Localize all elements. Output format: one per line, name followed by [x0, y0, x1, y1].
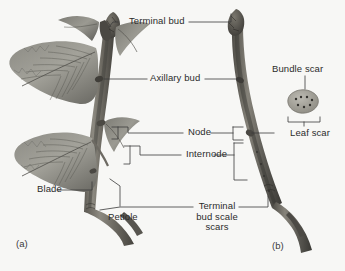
bracket-internode-b: [234, 143, 247, 180]
label-blade: Blade: [37, 184, 62, 195]
panel-label-a: (a): [16, 238, 28, 249]
leader-internode-a: [124, 146, 181, 155]
label-axillary-bud: Axillary bud: [150, 73, 200, 84]
panel-label-b: (b): [272, 240, 284, 251]
bracket-internode-a: [124, 146, 130, 164]
leader-terminal-bud-b: [189, 14, 231, 22]
leader-petiole: [110, 179, 120, 206]
label-bundle-scar: Bundle scar: [272, 64, 323, 75]
label-terminal-bud-scale-scars: Terminal bud scale scars: [196, 201, 238, 233]
leaf-a-upper-left: [58, 16, 99, 41]
leaf-a-mid: [104, 117, 140, 152]
leaf-a-upper-right: [115, 22, 150, 56]
bracket-leaf-scar: [288, 117, 320, 122]
label-petiole: Petiole: [108, 212, 138, 223]
leader-tbss-b: [239, 196, 268, 207]
label-leaf-scar: Leaf scar: [290, 128, 330, 139]
leaf-a-large-upper: [9, 41, 98, 104]
leaf-scar-inset-artwork: [288, 90, 319, 113]
label-node: Node: [188, 127, 211, 138]
botanical-figure: Terminal bud Axillary bud Node Internode…: [0, 0, 345, 271]
label-terminal-bud: Terminal bud: [129, 16, 185, 27]
leaf-scar-shape: [288, 90, 319, 113]
bracket-node-b: [233, 127, 243, 140]
leader-tbss-a: [100, 207, 193, 210]
label-internode: Internode: [186, 149, 227, 160]
